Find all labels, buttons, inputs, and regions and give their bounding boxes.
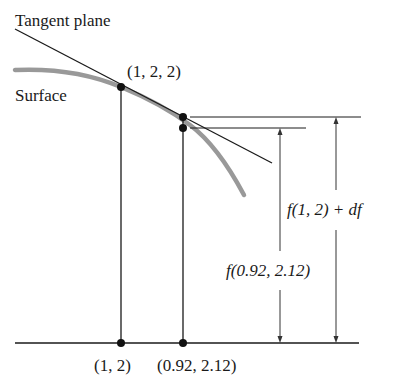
- base-point-2-dot: [179, 339, 187, 347]
- height-df-label: f(1, 2) + df: [287, 201, 362, 218]
- arrowhead-icon: [334, 117, 339, 124]
- surface-point-dot: [179, 124, 187, 132]
- base-point-1-label: (1, 2): [94, 357, 131, 374]
- base-point-1-dot: [117, 339, 125, 347]
- point-3d-label: (1, 2, 2): [127, 63, 181, 80]
- diagram-canvas: [0, 0, 412, 392]
- height-f-label: f(0.92, 2.12): [226, 262, 310, 279]
- tangent-plane-label: Tangent plane: [15, 12, 111, 29]
- tangent-plane-point-dot: [179, 113, 187, 121]
- base-point-2-label: (0.92, 2.12): [157, 357, 236, 374]
- tangent-point-dot: [117, 83, 125, 91]
- arrowhead-icon: [278, 336, 283, 343]
- arrowhead-icon: [334, 336, 339, 343]
- surface-label: Surface: [15, 87, 67, 104]
- arrowhead-icon: [278, 128, 283, 135]
